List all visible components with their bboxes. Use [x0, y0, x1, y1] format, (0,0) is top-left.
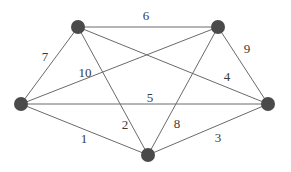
edge-TR-L	[21, 27, 218, 104]
edge-TR-R	[218, 27, 268, 104]
edge-weight-label: 9	[244, 41, 251, 56]
edge-weight-label: 6	[143, 8, 150, 23]
edge-weight-label: 1	[81, 131, 88, 146]
edge-TR-B	[148, 27, 218, 155]
edge-R-B	[148, 104, 268, 155]
edge-TL-B	[78, 27, 148, 155]
graph-diagram: 67109452813	[0, 0, 291, 172]
edges-group	[21, 27, 268, 155]
edge-weight-label: 2	[122, 117, 129, 132]
edge-weight-label: 5	[147, 90, 154, 105]
node-L	[14, 97, 28, 111]
edge-weight-label: 4	[224, 69, 231, 84]
graph-svg: 67109452813	[0, 0, 291, 172]
node-TL	[71, 20, 85, 34]
edge-L-B	[21, 104, 148, 155]
edge-weight-label: 3	[215, 130, 222, 145]
node-B	[141, 148, 155, 162]
edge-weight-label: 8	[174, 116, 181, 131]
node-TR	[211, 20, 225, 34]
node-R	[261, 97, 275, 111]
edge-weight-label: 10	[79, 65, 92, 80]
edge-weight-label: 7	[42, 49, 49, 64]
edge-TL-R	[78, 27, 268, 104]
